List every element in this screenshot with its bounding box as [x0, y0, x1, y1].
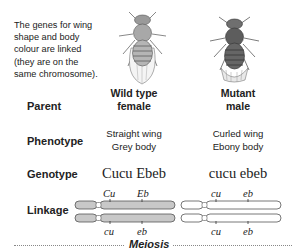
- phenotype-body: Ebony body: [198, 141, 278, 154]
- allele-label: cu: [211, 188, 221, 199]
- intro-line: (they are on the: [14, 56, 114, 68]
- genotype-mutant: cucu ebeb: [188, 165, 288, 182]
- row-label-genotype: Genotype: [27, 168, 78, 180]
- parent-heading-mutant: Mutant male: [198, 87, 278, 113]
- allele-label: Eb: [137, 188, 149, 199]
- intro-line: shape and body: [14, 31, 114, 43]
- row-label-phenotype: Phenotype: [27, 135, 83, 147]
- phenotype-body: Grey body: [94, 141, 174, 154]
- mutant-fly-illustration: [207, 12, 262, 87]
- parent-heading-wild-type: Wild type female: [94, 87, 174, 113]
- parent-title: Wild type: [94, 87, 174, 100]
- wild-type-fly-illustration: [115, 6, 170, 86]
- intro-line: colour are linked: [14, 43, 114, 55]
- intro-text: The genes for wing shape and body colour…: [14, 19, 114, 80]
- row-label-parent: Parent: [27, 100, 61, 112]
- phenotype-wing: Straight wing: [94, 128, 174, 141]
- intro-line: same chromosome).: [14, 68, 114, 80]
- meiosis-label: Meiosis: [125, 238, 173, 250]
- genotype-wild-type: Cucu Ebeb: [84, 165, 184, 182]
- parent-sex: male: [198, 100, 278, 113]
- parent-title: Mutant: [198, 87, 278, 100]
- allele-label: eb: [243, 226, 253, 237]
- intro-line: The genes for wing: [14, 19, 114, 31]
- phenotype-wing: Curled wing: [198, 128, 278, 141]
- phenotype-mutant: Curled wing Ebony body: [198, 128, 278, 153]
- phenotype-wild-type: Straight wing Grey body: [94, 128, 174, 153]
- allele-label: eb: [137, 226, 147, 237]
- allele-label: Cu: [103, 188, 115, 199]
- allele-label: eb: [243, 188, 253, 199]
- parent-sex: female: [94, 100, 174, 113]
- wild-type-chromosome-pair: [74, 199, 176, 227]
- allele-label: cu: [211, 226, 221, 237]
- mutant-chromosome-pair: [180, 199, 282, 227]
- allele-label: cu: [104, 226, 114, 237]
- row-label-linkage: Linkage: [27, 204, 69, 216]
